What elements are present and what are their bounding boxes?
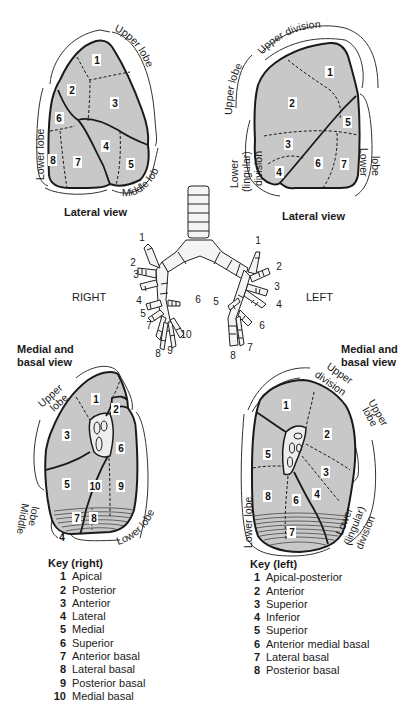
lower-lobe-label: Lower lobe: [34, 128, 46, 180]
hilum: [89, 413, 113, 457]
key-item: 5Superior: [250, 624, 369, 637]
svg-text:8: 8: [155, 348, 161, 359]
middle-lobe-label: Middle lobe: [15, 503, 42, 536]
svg-text:6: 6: [315, 158, 321, 169]
right-lung-medial-basal-view: 1 2 3 4 5 6 7 8 9 10 Upper lobe Middle l…: [15, 366, 157, 547]
svg-text:7: 7: [75, 157, 81, 168]
svg-text:3: 3: [133, 269, 139, 280]
left-side-label: LEFT: [306, 291, 333, 303]
svg-text:3: 3: [323, 467, 329, 478]
svg-text:5: 5: [265, 449, 271, 460]
lower-lobe-label: Lower lobe: [358, 148, 382, 177]
svg-text:Upper lobe: Upper lobe: [222, 60, 244, 115]
svg-text:3: 3: [112, 98, 118, 109]
svg-text:5: 5: [64, 479, 70, 490]
key-item: 5Medial: [48, 623, 145, 636]
svg-text:Lower: Lower: [228, 159, 240, 188]
key-item: 7Anterior basal: [48, 650, 145, 663]
key-item: 2Posterior: [48, 584, 145, 597]
upper-lobe-label: Upper lobe: [222, 60, 244, 115]
trachea: [188, 186, 209, 238]
key-right: Key (right) 1Apical 2Posterior 3Anterior…: [48, 557, 145, 703]
svg-text:2: 2: [324, 429, 330, 440]
svg-text:4: 4: [59, 532, 65, 543]
svg-text:1: 1: [139, 232, 145, 243]
svg-text:lobe: lobe: [370, 156, 382, 176]
left-lung-lateral-view: 1 2 3 4 5 6 7 Upper division Upper lobe …: [222, 18, 382, 196]
svg-text:7: 7: [74, 513, 80, 524]
svg-text:3: 3: [274, 281, 280, 292]
svg-text:8: 8: [265, 491, 271, 502]
key-item: 10Medial basal: [48, 690, 145, 703]
svg-text:10: 10: [89, 481, 101, 492]
svg-text:2: 2: [130, 257, 136, 268]
key-item: 6Superior: [48, 637, 145, 650]
svg-text:2: 2: [69, 85, 75, 96]
svg-text:6: 6: [56, 113, 62, 124]
bronchial-tree: 1 2 3 4 5 6 7 8 9 10 1 2 3 4 5 6 7 8: [130, 186, 282, 361]
key-item: 8Posterior basal: [250, 664, 369, 677]
svg-text:5: 5: [140, 308, 146, 319]
svg-text:7: 7: [247, 342, 253, 353]
key-item: 9Posterior basal: [48, 677, 145, 690]
svg-text:Lower: Lower: [358, 148, 370, 177]
svg-text:9: 9: [118, 481, 124, 492]
left-medial-view-caption: Medial and basal view: [341, 343, 398, 369]
svg-text:7: 7: [289, 527, 295, 538]
key-item: 2Anterior: [250, 585, 369, 598]
svg-text:5: 5: [128, 159, 134, 170]
svg-text:2: 2: [289, 98, 295, 109]
svg-text:1: 1: [255, 235, 261, 246]
left-lateral-view-caption: Lateral view: [282, 210, 345, 222]
svg-text:10: 10: [180, 329, 192, 340]
upper-lobe-label: Upper lobe: [360, 397, 391, 428]
svg-text:4: 4: [103, 141, 109, 152]
right-medial-view-caption: Medial and basal view: [17, 343, 74, 369]
svg-text:4: 4: [314, 489, 320, 500]
svg-text:6: 6: [195, 294, 201, 305]
svg-text:division: division: [252, 151, 264, 186]
svg-text:2: 2: [113, 404, 119, 415]
right-lateral-view-caption: Lateral view: [64, 206, 127, 218]
left-lung-medial-basal-view: 1 2 3 4 5 6 7 8 Upper division Upper lob…: [241, 360, 391, 556]
svg-text:6: 6: [118, 443, 124, 454]
svg-text:7: 7: [146, 320, 152, 331]
svg-text:5: 5: [213, 296, 219, 307]
lower-lobe-label: Lower lobe: [242, 496, 254, 548]
svg-text:5: 5: [345, 117, 351, 128]
svg-text:1: 1: [93, 394, 99, 405]
svg-text:1: 1: [283, 400, 289, 411]
svg-text:6: 6: [293, 495, 299, 506]
svg-text:3: 3: [285, 139, 291, 150]
key-item: 6Anterior medial basal: [250, 638, 369, 651]
svg-text:8: 8: [50, 155, 56, 166]
svg-text:(lingular): (lingular): [240, 151, 252, 192]
right-side-label: RIGHT: [72, 291, 106, 303]
key-item: 3Superior: [250, 598, 369, 611]
key-item: 1Apical-posterior: [250, 571, 369, 584]
svg-text:8: 8: [91, 513, 97, 524]
upper-lobe-brace: [236, 55, 252, 108]
svg-text:1: 1: [327, 67, 333, 78]
svg-text:1: 1: [94, 55, 100, 66]
right-lung-lateral-view: 1 2 3 4 5 6 7 8 Upper lobe Lower lobe Mi…: [0, 0, 161, 198]
key-item: 7Lateral basal: [250, 651, 369, 664]
key-item: 3Anterior: [48, 597, 145, 610]
svg-text:4: 4: [136, 295, 142, 306]
key-left: Key (left) 1Apical-posterior 2Anterior 3…: [250, 558, 369, 678]
key-item: 1Apical: [48, 570, 145, 583]
svg-text:4: 4: [276, 167, 282, 178]
svg-text:2: 2: [276, 261, 282, 272]
svg-text:7: 7: [341, 159, 347, 170]
svg-text:6: 6: [259, 320, 265, 331]
svg-text:8: 8: [230, 350, 236, 361]
svg-text:4: 4: [276, 299, 282, 310]
lower-lingular-label: Lower (lingular) division: [228, 151, 264, 192]
key-item: 8Lateral basal: [48, 663, 145, 676]
key-item: 4Lateral: [48, 610, 145, 623]
main-bronchi: [162, 240, 248, 280]
key-item: 4Inferior: [250, 611, 369, 624]
svg-text:3: 3: [64, 430, 70, 441]
svg-text:9: 9: [167, 345, 173, 356]
